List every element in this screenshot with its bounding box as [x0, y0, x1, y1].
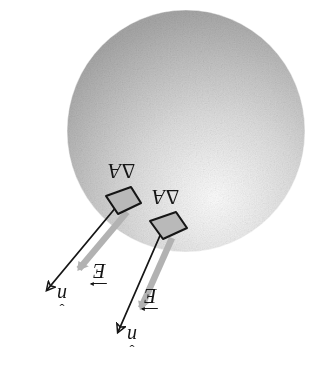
vector-arrow-icon-2: [142, 308, 158, 309]
hat-accent-icon-1: ˇ: [60, 293, 65, 308]
area-patch-1-label: ΔA: [108, 160, 135, 181]
vector-overbar-wrap-1: E: [93, 260, 106, 284]
sphere-shape: [67, 10, 305, 252]
normal-vector-1-shaft: [47, 206, 117, 290]
electric-field-vector-2-label: E: [144, 285, 157, 309]
electric-field-vector-1-label: E: [93, 260, 106, 284]
figure-root: ΔA ΔA E E ˇn ˇn: [0, 0, 327, 366]
vector-overbar-wrap-2: E: [144, 285, 157, 309]
delta-symbol-2: Δ: [165, 185, 179, 209]
vector-arrow-icon-1: [91, 283, 107, 284]
e-symbol-1: E: [93, 259, 106, 283]
normal-vector-2-label: ˇn: [127, 326, 137, 348]
figure-canvas: [0, 0, 327, 366]
delta-symbol-1: Δ: [121, 159, 135, 183]
sphere-group: [67, 10, 305, 252]
e-symbol-2: E: [144, 284, 157, 308]
hat-accent-icon-2: ˇ: [130, 334, 135, 349]
area-patch-2-label: ΔA: [152, 186, 179, 207]
hat-wrap-1: ˇn: [57, 285, 67, 307]
normal-vector-1-label: ˇn: [57, 285, 67, 307]
hat-wrap-2: ˇn: [127, 326, 137, 348]
area-symbol-1: A: [108, 159, 121, 183]
area-symbol-2: A: [152, 185, 165, 209]
